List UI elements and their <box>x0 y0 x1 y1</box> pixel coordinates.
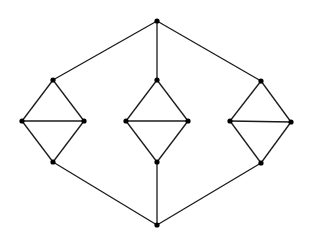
graph-diagram <box>0 0 310 242</box>
graph-node <box>227 118 232 123</box>
graph-node <box>123 118 128 123</box>
graph-node <box>154 77 159 82</box>
graph-edge <box>53 121 84 162</box>
graph-node <box>154 159 159 164</box>
graph-edge <box>261 122 291 163</box>
graph-edge <box>157 121 188 162</box>
graph-edge <box>126 80 157 121</box>
graph-edge <box>53 21 157 80</box>
graph-edge <box>126 121 157 162</box>
graph-node <box>154 18 159 23</box>
graph-node <box>154 222 159 227</box>
graph-edge <box>230 81 261 121</box>
graph-edge <box>53 80 84 121</box>
graph-edge <box>53 162 157 225</box>
graph-edge <box>230 121 261 163</box>
graph-node <box>50 159 55 164</box>
graph-node <box>50 77 55 82</box>
graph-edges <box>22 21 291 225</box>
graph-edge <box>157 163 261 225</box>
graph-edge <box>22 121 53 162</box>
graph-node <box>258 78 263 83</box>
graph-edge <box>22 80 53 121</box>
graph-node <box>19 118 24 123</box>
graph-node <box>258 160 263 165</box>
graph-edge <box>261 81 291 122</box>
graph-edge <box>157 21 261 81</box>
graph-node <box>81 118 86 123</box>
graph-node <box>185 118 190 123</box>
graph-edge <box>157 80 188 121</box>
graph-node <box>288 119 293 124</box>
graph-edge <box>230 121 291 122</box>
